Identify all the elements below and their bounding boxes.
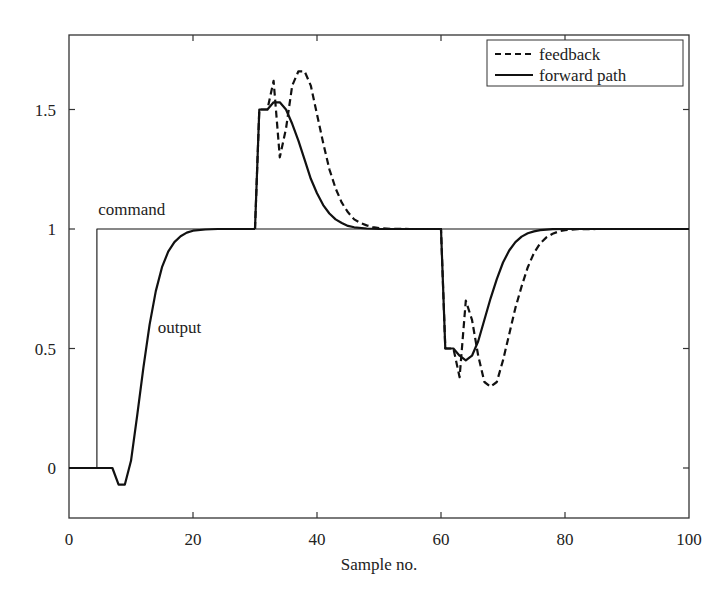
y-tick-label: 0 [48,459,57,478]
legend: feedback forward path [487,40,683,86]
x-tick-label: 20 [185,530,202,549]
x-axis-label: Sample no. [341,555,418,574]
x-tick-label: 60 [433,530,450,549]
y-tick-label: 1.5 [35,101,56,120]
x-tick-label: 100 [676,530,702,549]
x-tick-label: 0 [65,530,74,549]
plot-area [69,35,689,518]
line-chart: 02040608010000.511.5 command output Samp… [0,0,707,604]
legend-label-feedback: feedback [539,45,601,64]
legend-label-forward-path: forward path [539,66,627,85]
x-tick-label: 40 [309,530,326,549]
y-tick-label: 1 [48,220,57,239]
command-annotation: command [98,200,166,219]
y-tick-label: 0.5 [35,340,56,359]
x-tick-label: 80 [557,530,574,549]
output-annotation: output [158,318,202,337]
